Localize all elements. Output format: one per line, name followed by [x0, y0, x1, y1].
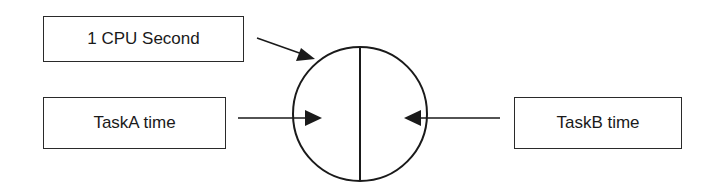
cpu-second-box: 1 CPU Second — [43, 16, 244, 62]
arrowhead-icon — [404, 110, 421, 126]
arrow-task-a — [238, 110, 322, 126]
task-b-label: TaskB time — [556, 113, 639, 133]
arrowhead-icon — [296, 48, 315, 61]
arrow-task-b — [404, 110, 500, 126]
arrowhead-icon — [305, 110, 322, 126]
task-a-box: TaskA time — [43, 97, 226, 149]
task-b-box: TaskB time — [514, 97, 682, 149]
arrow-cpu-second — [257, 38, 315, 61]
cpu-second-label: 1 CPU Second — [87, 29, 199, 49]
task-a-label: TaskA time — [93, 113, 175, 133]
